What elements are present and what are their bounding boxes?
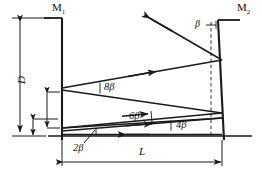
dimension-small-left	[33, 92, 60, 135]
label-angle-4beta: 4β	[176, 120, 186, 131]
ray-path	[62, 16, 222, 135]
label-mirror-m2: M2	[237, 2, 250, 16]
ray-leg-5-arrow	[128, 72, 156, 77]
diagram-canvas	[0, 0, 262, 172]
label-angle-8beta: 8β	[104, 82, 114, 93]
mirror-right-m2	[206, 20, 240, 140]
label-length-l: L	[139, 146, 145, 157]
ray-leg-4	[62, 90, 222, 113]
label-tilt-beta: β	[195, 19, 200, 29]
label-mirror-m1: M1	[52, 2, 65, 16]
label-separation-d: D	[16, 76, 27, 84]
label-angle-2beta: 2β	[73, 143, 83, 154]
ray-outgoing-arrow	[150, 18, 172, 31]
arc-6beta	[151, 111, 152, 123]
ray-diagram-figure: M1 M2 β D 8β 6β 4β 2β L	[0, 0, 262, 172]
label-angle-6beta: 6β	[129, 111, 139, 122]
